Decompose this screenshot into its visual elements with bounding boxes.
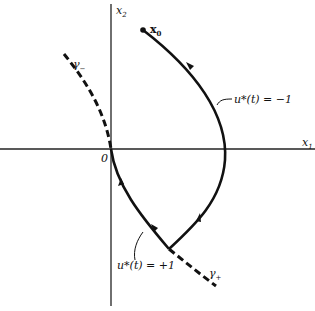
u-plus-label: u*(t) = +1 [117, 259, 175, 272]
leader-line-plus [134, 232, 143, 260]
u-minus-label: u*(t) = −1 [234, 93, 292, 106]
x1-axis-label: x1 [302, 136, 313, 151]
arrow-icon [196, 213, 201, 222]
trajectory-u-minus [143, 30, 225, 249]
gamma-plus-label: γ+ [209, 267, 222, 282]
x0-label: x0 [150, 23, 162, 38]
x2-axis-label: x2 [116, 4, 127, 19]
leader-line-minus [217, 99, 232, 105]
trajectory-u-plus [111, 149, 169, 249]
gamma-minus-label: γ− [73, 58, 86, 73]
gamma-minus-curve [64, 54, 111, 149]
origin-label: 0 [101, 152, 108, 165]
initial-state-point [140, 27, 146, 33]
phase-plane-diagram: x2 x1 0 x0 γ− γ+ u*(t) = −1 u*(t) = +1 [0, 0, 315, 311]
